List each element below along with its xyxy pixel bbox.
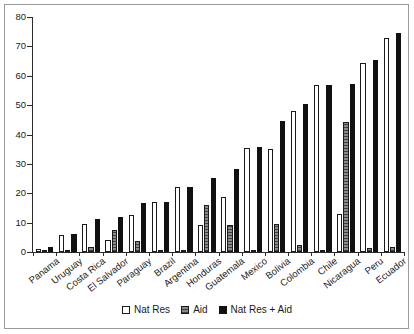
- bars-layer: [33, 17, 404, 252]
- bar-aid: [251, 250, 256, 252]
- bar-nat-res-plus-aid: [303, 104, 308, 252]
- chart-legend: Nat ResAidNat Res + Aid: [0, 304, 414, 315]
- bar-aid: [204, 205, 209, 252]
- legend-label: Aid: [193, 304, 207, 315]
- bar-nat-res: [360, 63, 365, 252]
- bar-aid: [88, 247, 93, 252]
- bar-aid: [65, 250, 70, 252]
- bar-aid: [158, 250, 163, 252]
- y-axis-tick-label: 60: [15, 71, 26, 81]
- bar-nat-res: [221, 197, 226, 252]
- y-axis-tick: [27, 164, 33, 165]
- legend-swatch-icon-nat-res-plus-aid: [219, 306, 227, 314]
- legend-item-nat-res: Nat Res: [122, 304, 170, 315]
- bar-aid: [297, 245, 302, 252]
- bar-group: [334, 17, 357, 252]
- bar-aid: [181, 250, 186, 252]
- bar-nat-res-plus-aid: [48, 247, 53, 252]
- bar-group: [265, 17, 288, 252]
- bar-nat-res: [384, 38, 389, 252]
- bar-group: [311, 17, 334, 252]
- bar-nat-res-plus-aid: [396, 33, 401, 252]
- bar-group: [149, 17, 172, 252]
- legend-swatch-icon-aid: [181, 306, 189, 314]
- bar-group: [126, 17, 149, 252]
- bar-nat-res-plus-aid: [95, 219, 100, 252]
- legend-label: Nat Res + Aid: [231, 304, 292, 315]
- bar-nat-res: [36, 249, 41, 252]
- bar-aid: [42, 250, 47, 252]
- plot-area: 01020304050607080: [32, 17, 404, 253]
- bar-nat-res-plus-aid: [141, 203, 146, 252]
- bar-nat-res-plus-aid: [257, 147, 262, 252]
- bar-aid: [135, 241, 140, 252]
- bar-aid: [320, 250, 325, 252]
- bar-nat-res: [175, 187, 180, 252]
- x-axis-tick: [404, 252, 405, 256]
- bar-nat-res-plus-aid: [373, 60, 378, 252]
- bar-group: [219, 17, 242, 252]
- y-axis-tick: [27, 105, 33, 106]
- y-axis-tick-label: 0: [21, 247, 26, 257]
- bar-nat-res: [105, 240, 110, 252]
- y-axis-tick: [27, 17, 33, 18]
- bar-aid: [367, 248, 372, 252]
- bar-nat-res: [152, 202, 157, 252]
- bar-nat-res-plus-aid: [211, 178, 216, 252]
- y-axis-tick: [27, 76, 33, 77]
- bar-aid: [343, 122, 348, 252]
- bar-group: [288, 17, 311, 252]
- bar-nat-res: [129, 215, 134, 252]
- bar-group: [33, 17, 56, 252]
- bar-group: [103, 17, 126, 252]
- y-axis-tick-label: 30: [15, 159, 26, 169]
- bar-group: [172, 17, 195, 252]
- y-axis-tick: [27, 46, 33, 47]
- bar-aid: [274, 224, 279, 252]
- bar-group: [79, 17, 102, 252]
- bar-nat-res: [59, 235, 64, 252]
- legend-item-nat-res-plus-aid: Nat Res + Aid: [219, 304, 292, 315]
- y-axis-tick: [27, 135, 33, 136]
- y-axis-tick-label: 10: [15, 218, 26, 228]
- bar-nat-res: [337, 214, 342, 252]
- bar-aid: [112, 230, 117, 252]
- legend-swatch-icon-nat-res: [122, 306, 130, 314]
- legend-item-aid: Aid: [181, 304, 207, 315]
- bar-group: [242, 17, 265, 252]
- bar-nat-res-plus-aid: [326, 85, 331, 252]
- y-axis-tick-label: 50: [15, 100, 26, 110]
- x-axis-label-mexico: Mexico: [240, 256, 270, 282]
- bar-group: [195, 17, 218, 252]
- bar-group: [381, 17, 404, 252]
- x-axis-category-labels: PanamaUruguayCosta RicaEl SalvadorParagu…: [32, 254, 404, 304]
- bar-nat-res-plus-aid: [187, 187, 192, 252]
- bar-nat-res: [314, 85, 319, 252]
- bar-nat-res: [82, 224, 87, 252]
- legend-label: Nat Res: [134, 304, 170, 315]
- y-axis-tick-label: 20: [15, 189, 26, 199]
- chart-figure: 01020304050607080 PanamaUruguayCosta Ric…: [0, 0, 414, 334]
- y-axis-tick-label: 80: [15, 12, 26, 22]
- bar-nat-res-plus-aid: [280, 121, 285, 252]
- y-axis-tick: [27, 223, 33, 224]
- bar-aid: [227, 225, 232, 252]
- bar-nat-res: [244, 148, 249, 252]
- bar-nat-res: [291, 111, 296, 252]
- bar-group: [358, 17, 381, 252]
- bar-nat-res-plus-aid: [164, 202, 169, 252]
- bar-aid: [390, 247, 395, 252]
- bar-nat-res: [198, 225, 203, 252]
- bar-nat-res-plus-aid: [118, 217, 123, 252]
- bar-nat-res-plus-aid: [71, 234, 76, 252]
- bar-nat-res-plus-aid: [234, 169, 239, 252]
- y-axis-tick-label: 40: [15, 130, 26, 140]
- y-axis-tick: [27, 193, 33, 194]
- bar-nat-res: [268, 149, 273, 252]
- bar-group: [56, 17, 79, 252]
- bar-nat-res-plus-aid: [350, 84, 355, 252]
- y-axis-tick-label: 70: [15, 42, 26, 52]
